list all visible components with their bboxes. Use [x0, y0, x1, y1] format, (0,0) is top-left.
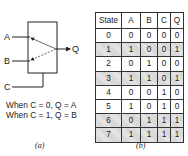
- cell-q: 1: [171, 128, 184, 142]
- cell-a: 1: [122, 99, 141, 113]
- table-row: 5 1 0 1 0: [96, 99, 184, 113]
- input-b-label: B: [4, 56, 10, 66]
- cell-b: 0: [141, 85, 158, 99]
- multiplexer-circuit: [0, 0, 94, 90]
- cell-b: 1: [141, 71, 158, 85]
- cell-a: 0: [122, 29, 141, 43]
- cell-b: 1: [141, 128, 158, 142]
- table-row: 0 0 0 0 0: [96, 29, 184, 43]
- table-row: 7 1 1 1 1: [96, 128, 184, 142]
- rule-c0: When C = 0, Q = A: [6, 100, 76, 110]
- cell-state: 1: [96, 43, 122, 57]
- table-row: 6 0 1 1 1: [96, 114, 184, 128]
- table-header-row: State A B C Q: [96, 13, 184, 29]
- cell-b: 0: [141, 99, 158, 113]
- cell-state: 3: [96, 71, 122, 85]
- cell-a: 0: [122, 85, 141, 99]
- table-row: 1 1 0 0 1: [96, 43, 184, 57]
- caption-b: (b): [136, 141, 145, 150]
- multiplexer-diagram-panel: A B C Q When C = 0, Q = A When C = 1, Q …: [0, 0, 94, 156]
- cell-a: 1: [122, 43, 141, 57]
- header-b: B: [141, 13, 158, 29]
- cell-q: 0: [171, 85, 184, 99]
- truth-table-panel: State A B C Q 0 0 0 0 0 1 1 0 0 1 2 0 1 …: [94, 0, 188, 156]
- cell-state: 5: [96, 99, 122, 113]
- table-row: 3 1 1 0 1: [96, 71, 184, 85]
- output-q-label: Q: [72, 44, 79, 54]
- header-q: Q: [171, 13, 184, 29]
- switch-arrow-b: [31, 49, 56, 60]
- cell-q: 1: [171, 43, 184, 57]
- cell-q: 0: [171, 57, 184, 71]
- cell-q: 0: [171, 99, 184, 113]
- cell-b: 1: [141, 114, 158, 128]
- cell-state: 0: [96, 29, 122, 43]
- cell-q: 0: [171, 29, 184, 43]
- cell-b: 1: [141, 57, 158, 71]
- cell-c: 0: [158, 57, 171, 71]
- cell-q: 1: [171, 114, 184, 128]
- cell-c: 1: [158, 85, 171, 99]
- cell-c: 1: [158, 99, 171, 113]
- cell-a: 1: [122, 71, 141, 85]
- switch-arrow-a: [31, 38, 56, 49]
- input-c-label: C: [4, 82, 11, 92]
- rule-c1: When C = 1, Q = B: [6, 110, 77, 120]
- header-a: A: [122, 13, 141, 29]
- input-a-label: A: [4, 32, 10, 42]
- input-c-line: [12, 73, 43, 87]
- cell-c: 1: [158, 114, 171, 128]
- cell-c: 1: [158, 128, 171, 142]
- table-row: 4 0 0 1 0: [96, 85, 184, 99]
- cell-q: 1: [171, 71, 184, 85]
- truth-table: State A B C Q 0 0 0 0 0 1 1 0 0 1 2 0 1 …: [95, 12, 184, 143]
- header-state: State: [96, 13, 122, 29]
- caption-a: (a): [35, 141, 44, 150]
- cell-state: 2: [96, 57, 122, 71]
- header-c: C: [158, 13, 171, 29]
- cell-c: 0: [158, 43, 171, 57]
- cell-b: 0: [141, 43, 158, 57]
- cell-c: 0: [158, 29, 171, 43]
- cell-c: 0: [158, 71, 171, 85]
- table-row: 2 0 1 0 0: [96, 57, 184, 71]
- cell-state: 6: [96, 114, 122, 128]
- cell-state: 7: [96, 128, 122, 142]
- cell-a: 0: [122, 114, 141, 128]
- cell-a: 1: [122, 128, 141, 142]
- cell-b: 0: [141, 29, 158, 43]
- cell-state: 4: [96, 85, 122, 99]
- cell-a: 0: [122, 57, 141, 71]
